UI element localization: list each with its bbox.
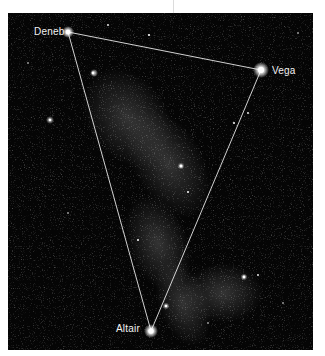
- top-divider-mark: [173, 0, 174, 13]
- star-vega: [253, 62, 269, 78]
- faint-stars-texture: [8, 13, 313, 350]
- label-vega: Vega: [272, 66, 296, 76]
- star-altair: [144, 324, 158, 338]
- star-field: [8, 13, 313, 350]
- label-altair: Altair: [116, 324, 140, 334]
- night-sky-photo: Deneb Vega Altair: [8, 13, 313, 350]
- label-deneb: Deneb: [34, 27, 64, 37]
